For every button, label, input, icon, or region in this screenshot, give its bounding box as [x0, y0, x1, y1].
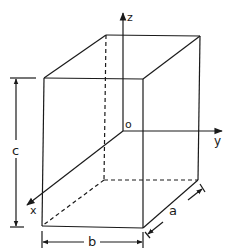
- origin-label: o: [125, 118, 132, 131]
- z-axis-label: z: [127, 11, 133, 24]
- dimension-c-label: c: [12, 143, 19, 158]
- box-front-face: [42, 78, 143, 228]
- box-right-face: [143, 36, 200, 228]
- x-axis: [27, 131, 123, 205]
- box-top-face: [44, 35, 200, 79]
- x-axis-label: x: [30, 204, 37, 217]
- dimension-b-label: b: [88, 234, 96, 249]
- dimension-a-label: a: [169, 203, 177, 218]
- box-diagram: z y x o c b a: [0, 0, 233, 252]
- y-axis-label: y: [214, 134, 221, 148]
